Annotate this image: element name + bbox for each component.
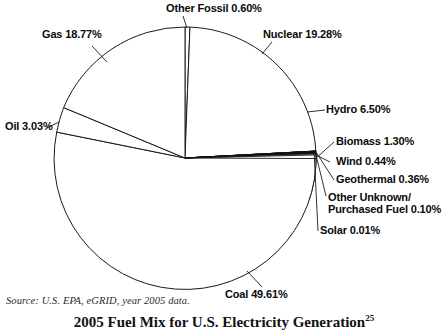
label-hydro: Hydro 6.50% xyxy=(326,103,390,116)
label-biomass: Biomass 1.30% xyxy=(336,135,414,148)
label-other-fossil: Other Fossil 0.60% xyxy=(166,2,262,15)
label-coal: Coal 49.61% xyxy=(225,288,288,301)
label-solar: Solar 0.01% xyxy=(320,224,380,237)
leader-nuclear xyxy=(262,42,272,54)
leader-hydro xyxy=(307,110,325,112)
label-other-unknown-line2: Purchased Fuel 0.10% xyxy=(328,203,441,216)
label-gas: Gas 18.77% xyxy=(42,28,102,41)
label-oil: Oil 3.03% xyxy=(5,120,53,133)
leader-coal xyxy=(247,271,262,287)
label-other-unknown-line1: Other Unknown/ xyxy=(328,191,411,204)
figure-caption-footnote: 25 xyxy=(365,313,374,323)
source-note: Source: U.S. EPA, eGRID, year 2005 data. xyxy=(6,295,190,306)
leader-other-fossil xyxy=(183,16,187,28)
pie-slices xyxy=(54,27,316,289)
label-wind: Wind 0.44% xyxy=(336,155,396,168)
figure-caption-text: 2005 Fuel Mix for U.S. Electricity Gener… xyxy=(74,314,365,330)
label-nuclear: Nuclear 19.28% xyxy=(263,28,342,41)
figure-caption: 2005 Fuel Mix for U.S. Electricity Gener… xyxy=(0,313,448,331)
leader-biomass xyxy=(315,142,334,159)
label-geothermal: Geothermal 0.36% xyxy=(336,173,429,186)
